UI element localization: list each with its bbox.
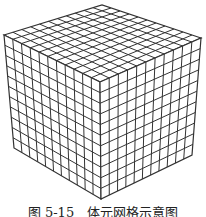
- figure-caption: 图 5-15 体元网格示意图: [0, 206, 206, 217]
- voxel-grid-cube: [0, 0, 206, 206]
